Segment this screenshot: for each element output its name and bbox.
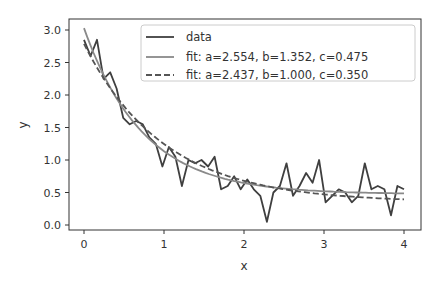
x-tick-label: 1 bbox=[161, 238, 168, 251]
chart: 01234 0.00.51.01.52.02.53.0 x y data fit… bbox=[0, 0, 437, 286]
y-tick-label: 2.0 bbox=[44, 89, 62, 102]
x-axis: 01234 bbox=[81, 230, 408, 251]
x-tick-label: 0 bbox=[81, 238, 88, 251]
x-tick-label: 4 bbox=[401, 238, 408, 251]
x-tick-label: 2 bbox=[241, 238, 248, 251]
y-tick-label: 1.0 bbox=[44, 154, 62, 167]
y-tick-label: 0.0 bbox=[44, 219, 62, 232]
x-tick-label: 3 bbox=[321, 238, 328, 251]
y-axis: 0.00.51.01.52.02.53.0 bbox=[44, 24, 70, 232]
y-tick-label: 0.5 bbox=[44, 187, 62, 200]
x-axis-label: x bbox=[240, 259, 247, 273]
y-axis-label: y bbox=[16, 121, 30, 128]
y-tick-label: 2.5 bbox=[44, 57, 62, 70]
legend: data fit: a=2.554, b=1.352, c=0.475 fit:… bbox=[141, 25, 415, 82]
legend-label-data: data bbox=[186, 30, 212, 44]
legend-label-fit2: fit: a=2.437, b=1.000, c=0.350 bbox=[186, 68, 368, 82]
y-tick-label: 1.5 bbox=[44, 122, 62, 135]
y-tick-label: 3.0 bbox=[44, 24, 62, 37]
legend-label-fit1: fit: a=2.554, b=1.352, c=0.475 bbox=[186, 50, 368, 64]
